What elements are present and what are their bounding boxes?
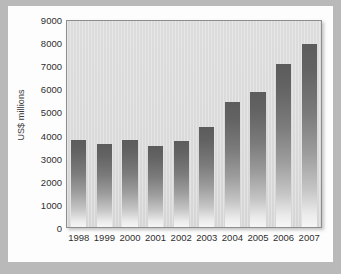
y-axis-tick-label: 6000 bbox=[16, 84, 62, 95]
x-axis-tick-label: 2005 bbox=[247, 232, 268, 243]
x-axis-tick-label: 2003 bbox=[196, 232, 217, 243]
y-axis-tick-label: 8000 bbox=[16, 38, 62, 49]
y-axis-tick-label: 0 bbox=[16, 223, 62, 234]
x-axis-tick-label: 2004 bbox=[222, 232, 243, 243]
bar bbox=[250, 92, 265, 227]
figure-root: US$ millions 010002000300040005000600070… bbox=[0, 0, 341, 274]
y-axis-tick-label: 4000 bbox=[16, 130, 62, 141]
x-axis-tick-label: 2000 bbox=[119, 232, 140, 243]
bar bbox=[97, 144, 112, 227]
bar bbox=[174, 141, 189, 227]
bar bbox=[199, 127, 214, 227]
bar bbox=[276, 64, 291, 227]
bar-chart: US$ millions 010002000300040005000600070… bbox=[8, 6, 333, 262]
bar bbox=[148, 146, 163, 227]
y-axis-tick-label: 3000 bbox=[16, 153, 62, 164]
chart-card: US$ millions 010002000300040005000600070… bbox=[8, 6, 333, 262]
x-axis-tick-label: 2002 bbox=[171, 232, 192, 243]
y-axis-tick-label: 5000 bbox=[16, 107, 62, 118]
x-axis-tick-labels: 1998199920002001200220032004200520062007 bbox=[66, 232, 322, 248]
bars-layer bbox=[66, 20, 322, 228]
x-axis-tick-label: 2006 bbox=[273, 232, 294, 243]
y-axis-tick-label: 1000 bbox=[16, 199, 62, 210]
y-axis-tick-label: 7000 bbox=[16, 61, 62, 72]
x-axis-tick-label: 1998 bbox=[68, 232, 89, 243]
x-axis-tick-label: 2001 bbox=[145, 232, 166, 243]
bar bbox=[225, 102, 240, 227]
bar bbox=[71, 140, 86, 227]
bar bbox=[122, 140, 137, 227]
y-axis-tick-label: 9000 bbox=[16, 15, 62, 26]
x-axis-tick-label: 1999 bbox=[94, 232, 115, 243]
y-axis-tick-label: 2000 bbox=[16, 176, 62, 187]
x-axis-tick-label: 2007 bbox=[299, 232, 320, 243]
y-axis-tick-labels: 0100020003000400050006000700080009000 bbox=[14, 20, 62, 228]
bar bbox=[302, 44, 317, 227]
